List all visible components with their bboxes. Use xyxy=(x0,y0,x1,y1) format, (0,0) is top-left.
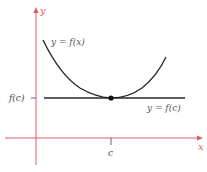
tangent-line-label: y = f(c) xyxy=(146,103,181,113)
curve-label: y = f(x) xyxy=(50,37,85,47)
curve-f xyxy=(43,40,166,98)
y-axis-label: y xyxy=(39,5,46,16)
tangency-point xyxy=(108,95,113,100)
x-axis-arrow-icon xyxy=(197,136,203,141)
x-axis-label: x xyxy=(198,141,204,152)
y-tick-label-fc: f(c) xyxy=(8,93,25,103)
x-tick-label-c: c xyxy=(108,148,113,158)
tangent-minimum-diagram: y x c f(c) y = f(c) y = f(x) xyxy=(0,0,207,172)
x-axis xyxy=(5,136,203,141)
y-axis xyxy=(34,7,39,165)
y-axis-arrow-icon xyxy=(34,7,39,13)
